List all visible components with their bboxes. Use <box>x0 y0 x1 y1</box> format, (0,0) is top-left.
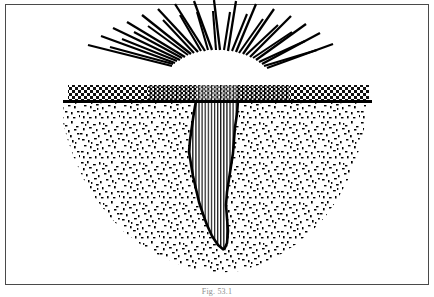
surface-layer <box>68 85 369 101</box>
figure-caption: Fig. 53.1 <box>0 287 434 297</box>
figure-page: Fig. 53.1 <box>0 0 434 297</box>
figure-illustration <box>0 0 434 297</box>
burst-rays-group <box>88 0 333 68</box>
